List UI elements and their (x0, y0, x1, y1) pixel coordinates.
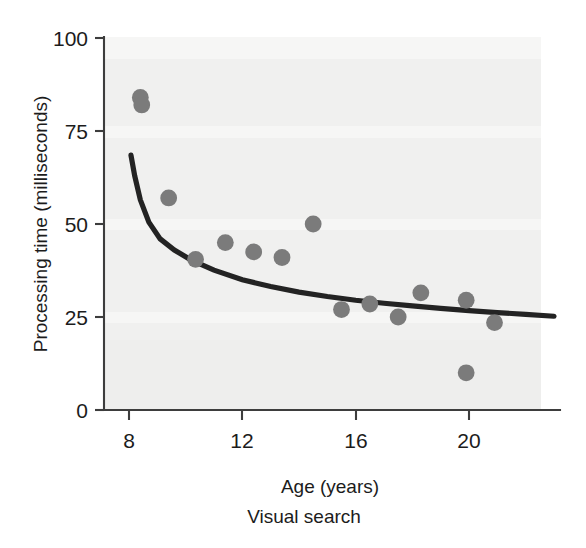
data-point (458, 292, 475, 309)
chart-caption: Visual search (247, 506, 361, 527)
data-point (274, 249, 291, 266)
figure-container: 100 75 50 25 0 8 12 16 20 Age (years) Pr… (0, 0, 586, 548)
x-tick-label-12: 12 (230, 429, 253, 452)
data-point (333, 301, 350, 318)
x-tick-label-16: 16 (344, 429, 367, 452)
y-tick-label-100: 100 (53, 27, 88, 50)
data-point (245, 244, 262, 261)
y-tick-label-0: 0 (76, 399, 88, 422)
x-tick-label-20: 20 (457, 429, 480, 452)
data-point (412, 284, 429, 301)
x-tick-label-8: 8 (123, 429, 135, 452)
data-point (390, 309, 407, 326)
data-point (458, 364, 475, 381)
visual-search-scatter-chart: 100 75 50 25 0 8 12 16 20 Age (years) Pr… (0, 0, 586, 548)
data-point (361, 296, 378, 313)
plot-area-background (104, 37, 541, 410)
y-axis-title: Processing time (milliseconds) (30, 96, 51, 353)
data-point (486, 314, 503, 331)
x-axis-title: Age (years) (281, 476, 379, 497)
data-point (160, 190, 177, 207)
y-tick-label-50: 50 (65, 213, 88, 236)
data-point (305, 216, 322, 233)
y-tick-label-75: 75 (65, 120, 88, 143)
data-point (187, 251, 204, 268)
y-tick-label-25: 25 (65, 306, 88, 329)
data-point (217, 234, 234, 251)
data-point (133, 97, 150, 114)
